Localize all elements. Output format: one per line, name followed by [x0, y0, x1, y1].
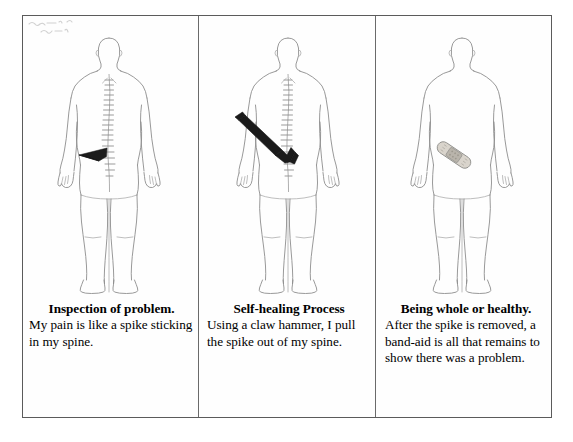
panel-inspection-figure	[23, 16, 198, 299]
panel-inspection: Inspection of problem. My pain is like a…	[23, 16, 198, 417]
three-panel-figure-frame: Inspection of problem. My pain is like a…	[22, 15, 552, 418]
human-body-posterior-icon	[199, 16, 375, 299]
panel-being-whole-heading: Being whole or healthy.	[385, 301, 547, 317]
panel-inspection-heading: Inspection of problem.	[29, 301, 194, 317]
band-aid-icon	[435, 139, 473, 170]
human-body-posterior-icon	[376, 16, 551, 299]
panel-being-whole-body: After the spike is removed, a band-aid i…	[385, 317, 547, 366]
human-body-posterior-icon	[23, 16, 198, 299]
panel-inspection-caption: Inspection of problem. My pain is like a…	[23, 299, 198, 350]
panel-inspection-body: My pain is like a spike sticking in my s…	[29, 317, 194, 350]
panel-being-whole-figure	[376, 16, 551, 299]
panel-self-healing-figure	[199, 16, 375, 299]
panel-self-healing: Self-healing Process Using a claw hammer…	[198, 16, 376, 417]
panel-self-healing-body: Using a claw hammer, I pull the spike ou…	[207, 317, 371, 350]
spine-icon	[281, 74, 295, 192]
panel-self-healing-caption: Self-healing Process Using a claw hammer…	[199, 299, 375, 350]
spine-icon	[102, 74, 116, 192]
panel-self-healing-heading: Self-healing Process	[207, 301, 371, 317]
panel-being-whole: Being whole or healthy. After the spike …	[376, 16, 551, 417]
panel-being-whole-caption: Being whole or healthy. After the spike …	[376, 299, 551, 367]
